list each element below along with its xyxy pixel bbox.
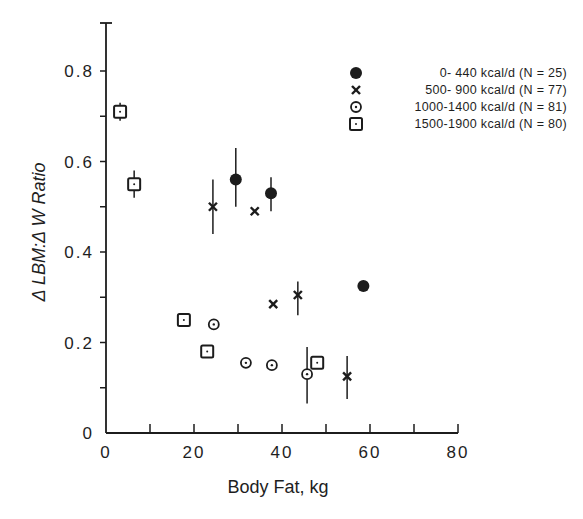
y-tick-label: 0.6 (64, 153, 94, 172)
legend-label: 1500-1900 kcal/d (N = 80) (415, 117, 567, 131)
cross-marker (352, 86, 360, 94)
legend-item: 500- 900 kcal/d (N = 77) (352, 83, 567, 97)
series-dotted-square (114, 103, 323, 369)
x-tick-label: 60 (359, 443, 382, 462)
legend-item: 1000-1400 kcal/d (N = 81) (351, 100, 567, 114)
y-tick-label: 0.2 (64, 334, 94, 353)
dotted-square-marker (311, 357, 323, 369)
cross-marker (269, 300, 277, 308)
y-tick-label: 0 (83, 424, 94, 443)
legend-label: 500- 900 kcal/d (N = 77) (425, 83, 567, 97)
axes: 00.20.40.60.8020406080 (64, 23, 469, 462)
y-tick-label: 0.4 (64, 243, 94, 262)
series-filled-circle (230, 148, 370, 292)
dotted-circle-marker (209, 319, 219, 329)
dotted-square-marker (114, 106, 126, 118)
legend-item: 1500-1900 kcal/d (N = 80) (350, 117, 567, 131)
dotted-square-marker (128, 178, 140, 190)
y-tick-label: 0.8 (64, 62, 94, 81)
scatter-chart: 00.20.40.60.8020406080 0- 440 kcal/d (N … (0, 0, 583, 519)
dotted-circle-marker (302, 369, 312, 379)
dotted-circle-marker (267, 360, 277, 370)
series-dotted-circle (209, 319, 312, 403)
filled-circle-marker (230, 174, 242, 186)
legend: 0- 440 kcal/d (N = 25)500- 900 kcal/d (N… (350, 66, 567, 131)
dotted-circle-marker (351, 102, 361, 112)
legend-label: 0- 440 kcal/d (N = 25) (440, 66, 567, 80)
dotted-circle-marker (241, 358, 251, 368)
x-tick-label: 40 (271, 443, 294, 462)
filled-circle-marker (350, 67, 362, 79)
x-tick-label: 0 (100, 443, 111, 462)
cross-marker (251, 207, 259, 215)
dotted-square-marker (178, 314, 190, 326)
y-axis-title: Δ LBM:Δ W Ratio (29, 163, 49, 303)
x-tick-label: 20 (183, 443, 206, 462)
data-points (114, 103, 369, 404)
series-cross (209, 180, 351, 399)
legend-label: 1000-1400 kcal/d (N = 81) (415, 100, 567, 114)
x-axis-title: Body Fat, kg (227, 477, 328, 497)
dotted-square-marker (350, 118, 362, 130)
legend-item: 0- 440 kcal/d (N = 25) (350, 66, 567, 80)
filled-circle-marker (357, 280, 369, 292)
x-tick-label: 80 (447, 443, 470, 462)
dotted-square-marker (201, 346, 213, 358)
filled-circle-marker (265, 187, 277, 199)
